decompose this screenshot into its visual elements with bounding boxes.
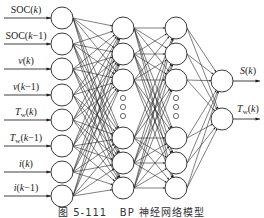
output-label: Tw(k) — [237, 103, 259, 116]
hidden-2-neuron — [165, 17, 187, 39]
hidden-2-neuron — [165, 152, 187, 174]
hidden-2-neuron — [165, 177, 187, 199]
hidden-2-neuron — [165, 127, 187, 149]
input-neuron — [51, 109, 73, 131]
ellipsis-dot — [173, 113, 178, 118]
edge — [187, 91, 219, 188]
hidden-1-neuron — [112, 43, 134, 65]
hidden-1-neuron — [112, 17, 134, 39]
input-label: SOC(k−1) — [5, 30, 46, 42]
hidden-2-neuron — [165, 69, 187, 91]
edge — [187, 91, 218, 163]
input-label: Tw(k−1) — [10, 132, 42, 145]
output-neuron — [211, 70, 233, 92]
input-neuron — [51, 135, 73, 157]
edge — [187, 124, 213, 138]
hidden-1-neuron — [112, 152, 134, 174]
input-label: SOC(k) — [11, 4, 42, 16]
ellipsis-dot — [173, 95, 178, 100]
ellipsis-dot — [120, 104, 125, 109]
figure-caption: 图 5-111 BP 神经网络模型 — [58, 204, 205, 218]
output-label: S(k) — [240, 65, 256, 77]
edge — [73, 165, 113, 172]
ellipsis-dot — [120, 95, 125, 100]
input-label: i(k−1) — [14, 182, 39, 194]
edge — [73, 146, 115, 181]
input-label: i(k) — [19, 158, 33, 170]
connection-edges — [73, 18, 219, 196]
edge — [73, 140, 113, 146]
output-neuron — [211, 108, 233, 130]
hidden-1-neuron — [112, 69, 134, 91]
hidden-1-neuron — [112, 177, 134, 199]
edge — [73, 190, 113, 196]
input-neuron — [51, 33, 73, 55]
input-label: Tw(k) — [15, 106, 37, 119]
bp-neural-network-diagram: SOC(k)SOC(k−1)v(k)v(k−1)Tw(k)Tw(k−1)i(k)… — [0, 0, 264, 218]
edge — [187, 128, 217, 188]
edge — [73, 88, 117, 146]
input-neuron — [51, 58, 73, 80]
edge — [187, 54, 214, 75]
input-neuron — [51, 161, 73, 183]
ellipsis-dot — [120, 113, 125, 118]
hidden-1-neuron — [112, 127, 134, 149]
input-neuron — [51, 7, 73, 29]
hidden-2-neuron — [165, 43, 187, 65]
input-label: v(k−1) — [13, 81, 39, 93]
input-label: v(k) — [18, 55, 34, 67]
edge — [187, 80, 212, 81]
input-neuron — [51, 84, 73, 106]
ellipsis-dot — [173, 104, 178, 109]
